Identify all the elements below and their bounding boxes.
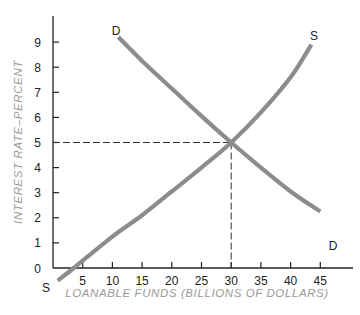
curve-labels: SSDD xyxy=(42,24,338,295)
x-tick-label: 30 xyxy=(225,274,239,288)
demand-curve-label: D xyxy=(112,24,121,38)
y-tick-label: 3 xyxy=(34,186,41,200)
equilibrium-guides xyxy=(53,143,231,269)
x-ticks: 51015202530354045 xyxy=(79,262,327,288)
y-tick-label: 5 xyxy=(34,136,41,150)
supply-demand-chart: 0123456789 51015202530354045 SSDD INTERE… xyxy=(0,0,360,315)
y-tick-label: 7 xyxy=(34,86,41,100)
x-tick-label: 40 xyxy=(284,274,298,288)
x-tick-label: 45 xyxy=(314,274,328,288)
demand-curve xyxy=(118,37,320,211)
x-tick-label: 10 xyxy=(106,274,120,288)
x-axis-title: LOANABLE FUNDS (BILLIONS OF DOLLARS) xyxy=(65,287,329,299)
y-tick-label: 4 xyxy=(34,161,41,175)
y-ticks: 0123456789 xyxy=(34,36,59,276)
supply-curve-label: S xyxy=(42,281,50,295)
x-tick-label: 15 xyxy=(135,274,149,288)
x-tick-label: 20 xyxy=(165,274,179,288)
y-tick-label: 8 xyxy=(34,61,41,75)
y-tick-label: 1 xyxy=(34,236,41,250)
y-axis-title: INTEREST RATE–PERCENT xyxy=(12,60,24,224)
y-tick-label: 2 xyxy=(34,211,41,225)
supply-curve xyxy=(58,45,312,281)
supply-curve-label: S xyxy=(310,29,318,43)
curves xyxy=(58,37,321,280)
y-tick-label: 0 xyxy=(34,262,41,276)
x-tick-label: 35 xyxy=(254,274,268,288)
demand-curve-label: D xyxy=(329,239,338,253)
y-tick-label: 6 xyxy=(34,111,41,125)
y-tick-label: 9 xyxy=(34,36,41,50)
x-tick-label: 25 xyxy=(195,274,209,288)
x-tick-label: 5 xyxy=(79,274,86,288)
